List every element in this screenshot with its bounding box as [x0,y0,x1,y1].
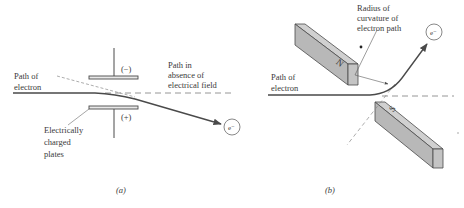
radius-of-curvature-label: Radius of curvature of electron path [357,3,402,33]
panel-a-electric-field: (−) (+) e⁻ Path of electron Path in abse… [13,48,240,195]
electron-symbol-b: e⁻ [430,29,437,37]
curvature-center-dot [360,46,363,49]
radius-pointer-arrow [355,75,388,84]
electron-deflection-figure: (−) (+) e⁻ Path of electron Path in abse… [0,0,464,208]
negative-sign: (−) [121,64,132,74]
north-magnet: N [295,24,358,85]
caption-b: (b) [325,185,335,195]
caption-a: (a) [116,185,126,195]
south-magnet: S [375,102,443,168]
stray-mark [457,132,458,133]
bottom-charged-plate [89,106,138,109]
charged-plates-label: Electrically charged plates [44,125,85,159]
path-of-electron-label-b: Path of electron [271,72,299,93]
top-charged-plate [89,76,138,79]
path-absence-label: Path in absence of electrical field [168,60,218,90]
path-of-electron-label-a: Path of electron [14,71,42,92]
radius-leader-line [355,30,377,75]
panel-b-magnetic-field: N S e⁻ Radius of curvature of [268,3,459,195]
positive-sign: (+) [121,112,132,122]
plates-leader-line [68,109,89,125]
electron-symbol: e⁻ [228,124,235,132]
